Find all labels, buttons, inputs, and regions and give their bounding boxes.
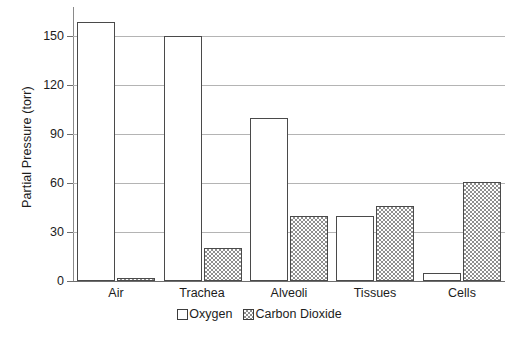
plot-area: [73, 7, 505, 281]
bar-chart: Partial Pressure (torr) 0306090120150 Ai…: [0, 0, 519, 340]
y-tick-label-60: 60: [20, 176, 64, 190]
y-tick-mark-90: [67, 134, 73, 135]
legend-label-oxygen: Oxygen: [189, 307, 232, 321]
gridline-120: [73, 85, 505, 86]
gridline-150: [73, 36, 505, 37]
x-axis-label-alveoli: Alveoli: [246, 286, 332, 300]
legend-item-oxygen[interactable]: Oxygen: [177, 307, 232, 321]
bar-cells-oxygen: [423, 273, 461, 281]
legend-item-carbon-dioxide[interactable]: Carbon Dioxide: [243, 307, 341, 321]
bar-alveoli-oxygen: [250, 118, 288, 281]
bar-cells-carbon-dioxide: [463, 182, 501, 281]
legend-label-carbon-dioxide: Carbon Dioxide: [255, 307, 341, 321]
bar-tissues-carbon-dioxide: [376, 206, 414, 281]
x-axis-label-cells: Cells: [419, 286, 505, 300]
gridline-90: [73, 134, 505, 135]
y-tick-label-150: 150: [20, 29, 64, 43]
y-tick-mark-150: [67, 36, 73, 37]
bar-trachea-oxygen: [164, 36, 202, 281]
bar-air-carbon-dioxide: [117, 278, 155, 281]
y-tick-mark-0: [67, 281, 73, 282]
gridline-60: [73, 183, 505, 184]
y-tick-label-120: 120: [20, 78, 64, 92]
y-axis-title: Partial Pressure (torr): [20, 47, 34, 247]
bar-alveoli-carbon-dioxide: [290, 216, 328, 281]
x-axis-label-tissues: Tissues: [332, 286, 418, 300]
y-tick-mark-60: [67, 183, 73, 184]
y-tick-mark-30: [67, 232, 73, 233]
bar-tissues-oxygen: [336, 216, 374, 281]
y-tick-label-90: 90: [20, 127, 64, 141]
bar-air-oxygen: [77, 22, 115, 281]
legend-swatch-carbon-dioxide-icon: [243, 309, 254, 320]
x-axis-label-trachea: Trachea: [159, 286, 245, 300]
gridline-30: [73, 232, 505, 233]
x-axis-label-air: Air: [73, 286, 159, 300]
bar-trachea-carbon-dioxide: [204, 248, 242, 281]
y-tick-label-0: 0: [20, 274, 64, 288]
x-axis-line: [73, 281, 505, 282]
chart-legend: Oxygen Carbon Dioxide: [0, 307, 519, 321]
legend-swatch-oxygen-icon: [177, 309, 188, 320]
y-tick-mark-120: [67, 85, 73, 86]
y-tick-label-30: 30: [20, 225, 64, 239]
